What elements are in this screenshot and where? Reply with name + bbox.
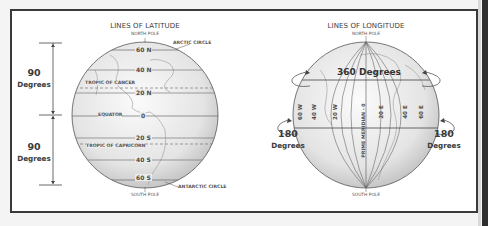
lon-40w-label: 40 W <box>311 104 317 120</box>
longitude-south-pole-label: SOUTH POLE <box>336 192 396 197</box>
arctic-circle-label: ARCTIC CIRCLE <box>173 40 211 45</box>
full-rotation-label: 360 Degrees <box>337 67 401 77</box>
lon-60e-label: 60 E <box>418 105 424 119</box>
latitude-north-pole-label: NORTH POLE <box>115 31 175 36</box>
west-span-value: 180 <box>268 128 308 139</box>
latitude-globe <box>39 38 230 192</box>
latitude-title: LINES OF LATITUDE <box>95 22 195 30</box>
lat-20s-label: 20 S <box>135 134 152 141</box>
longitude-north-pole-label: NORTH POLE <box>336 31 396 36</box>
lower-span-value: 90 <box>14 141 54 152</box>
tropic-of-cancer-label: TROPIC OF CANCER <box>85 80 135 85</box>
west-span-unit: Degrees <box>268 141 308 150</box>
lon-20w-label: 20 W <box>332 104 338 120</box>
lat-40s-label: 40 S <box>135 156 152 163</box>
lon-20e-label: 20 E <box>378 105 384 119</box>
tropic-of-capricorn-label: TROPIC OF CAPRICORN <box>86 143 145 148</box>
latitude-south-pole-label: SOUTH POLE <box>115 192 175 197</box>
equator-label: EQUATOR <box>98 112 122 117</box>
lat-20n-label: 20 N <box>135 89 152 96</box>
east-span-value: 180 <box>424 128 464 139</box>
antarctic-circle-label: ANTARCTIC CIRCLE <box>178 184 227 189</box>
upper-span-value: 90 <box>14 67 54 78</box>
lat-60n-label: 60 N <box>135 46 152 53</box>
longitude-globe <box>278 36 455 192</box>
upper-span-unit: Degrees <box>14 80 54 89</box>
globe-graphics <box>0 0 488 226</box>
lat-40n-label: 40 N <box>135 66 152 73</box>
east-span-unit: Degrees <box>424 141 464 150</box>
lat-0-label: 0 <box>140 112 146 119</box>
lon-60w-label: 60 W <box>297 104 303 120</box>
lon-40e-label: 40 E <box>402 105 408 119</box>
lat-60s-label: 60 S <box>135 174 152 181</box>
longitude-title: LINES OF LONGITUDE <box>316 22 416 30</box>
prime-meridian-label: PRIME MERIDIAN - 0 <box>361 103 366 157</box>
lower-span-unit: Degrees <box>14 154 54 163</box>
